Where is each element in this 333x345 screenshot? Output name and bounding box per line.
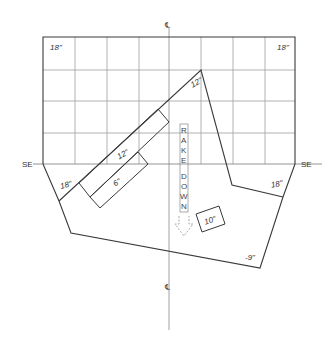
rake-letter: K bbox=[181, 146, 187, 155]
label-box: 10" bbox=[203, 214, 218, 227]
label-strip-lower: 6" bbox=[112, 176, 124, 188]
rake-letter: N bbox=[181, 202, 187, 211]
label-top-left: 18" bbox=[50, 43, 63, 52]
rake-letter: W bbox=[180, 192, 188, 201]
label-se-right: SE bbox=[301, 160, 312, 169]
roof-plan-diagram: 18" 18" 12" 12" 6" 18" 18" 10" -9" SE SE… bbox=[0, 0, 333, 345]
rake-letter: A bbox=[181, 136, 187, 145]
centerline-symbol-top: ℄ bbox=[164, 21, 171, 30]
centerline-symbol-bottom: ℄ bbox=[164, 283, 171, 292]
rake-letter: D bbox=[181, 172, 187, 181]
label-strip-upper: 12" bbox=[116, 147, 132, 161]
rake-letter: O bbox=[181, 182, 187, 191]
label-top-right: 18" bbox=[277, 43, 290, 52]
label-right-lower: 18" bbox=[270, 179, 284, 190]
label-se-left: SE bbox=[22, 160, 33, 169]
rake-letter: E bbox=[181, 156, 186, 165]
rake-letter: R bbox=[181, 126, 187, 135]
label-ridge-peak: 12" bbox=[189, 75, 205, 89]
label-bottom-right: -9" bbox=[245, 253, 256, 262]
